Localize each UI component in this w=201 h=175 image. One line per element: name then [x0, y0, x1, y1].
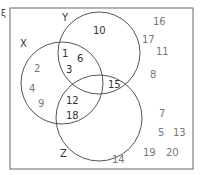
- region-value: 9: [38, 98, 44, 109]
- outside-value: 13: [173, 127, 186, 138]
- region-value: 2: [34, 63, 40, 74]
- region-value: 15: [108, 79, 121, 90]
- outside-value: 5: [158, 127, 164, 138]
- set-x-label: X: [20, 38, 27, 49]
- outside-value: 11: [156, 46, 169, 57]
- outside-value: 8: [150, 69, 156, 80]
- region-value: 4: [29, 83, 35, 94]
- region-value: 18: [66, 110, 79, 121]
- set-y-label: Y: [61, 12, 69, 23]
- region-value: 6: [77, 53, 83, 64]
- outside-value: 17: [142, 34, 155, 45]
- outside-value: 16: [153, 16, 166, 27]
- region-value: 12: [66, 95, 79, 106]
- outside-value: 19: [143, 147, 156, 158]
- outside-value: 20: [166, 147, 179, 158]
- region-value: 1: [62, 48, 68, 59]
- universal-set-symbol: ξ: [1, 8, 6, 18]
- venn-diagram: ξ X Y Z 2 4 9 10 1 6 3 15 12 18 14 16 17…: [0, 0, 201, 175]
- region-value: 10: [93, 25, 106, 36]
- set-z-label: Z: [60, 148, 67, 159]
- region-value: 14: [112, 154, 125, 165]
- region-value: 3: [66, 64, 72, 75]
- outside-value: 7: [159, 108, 165, 119]
